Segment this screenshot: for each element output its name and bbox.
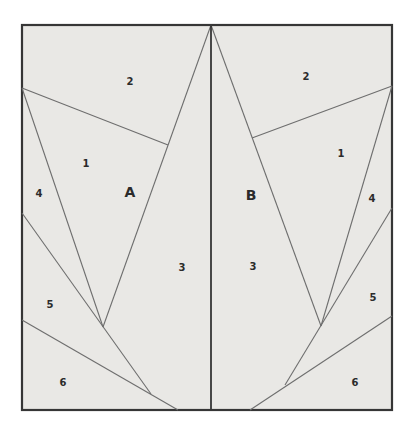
piece-number-label: 3 bbox=[179, 262, 186, 273]
piece-number-label: 6 bbox=[60, 377, 67, 388]
piece-number-label: 2 bbox=[303, 71, 310, 82]
piece-number-label: 4 bbox=[36, 188, 43, 199]
piece-number-label: 3 bbox=[250, 261, 257, 272]
piece-number-label: 4 bbox=[369, 193, 376, 204]
piece-number-label: 5 bbox=[370, 292, 377, 303]
section-letter-label: A bbox=[125, 184, 136, 200]
piece-number-label: 1 bbox=[83, 158, 90, 169]
section-letter-label: B bbox=[246, 187, 257, 203]
piece-number-label: 5 bbox=[47, 299, 54, 310]
pattern-canvas: 214356214356AB bbox=[0, 0, 408, 426]
piece-number-label: 2 bbox=[127, 76, 134, 87]
piece-number-label: 1 bbox=[338, 148, 345, 159]
pattern-diagram: 214356214356AB bbox=[0, 0, 408, 426]
piece-number-label: 6 bbox=[352, 377, 359, 388]
